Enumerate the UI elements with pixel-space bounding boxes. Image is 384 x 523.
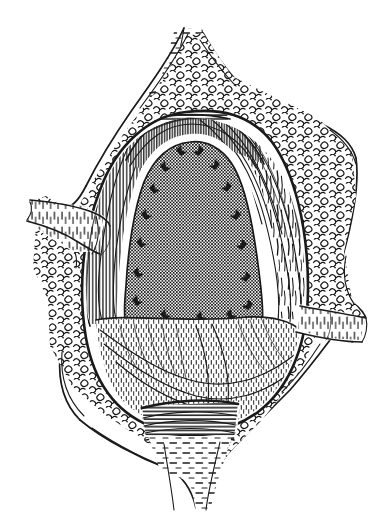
illustration-canvas <box>0 0 384 523</box>
anatomical-figure <box>0 0 384 523</box>
